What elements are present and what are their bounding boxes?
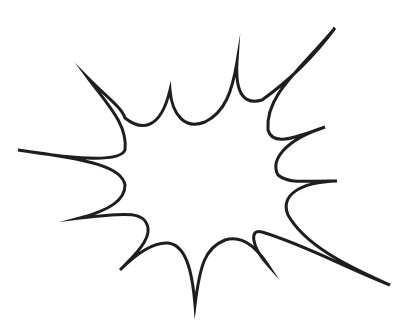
burst-illustration [0,0,414,323]
explosion-burst-icon [0,0,414,323]
burst-outline [18,28,390,305]
